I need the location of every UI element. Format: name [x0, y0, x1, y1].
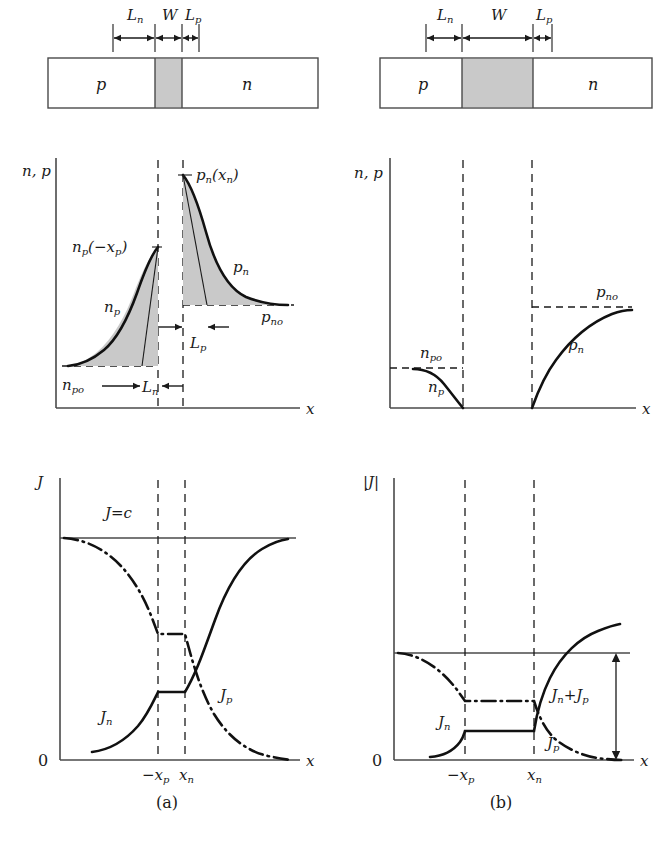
- carrier-xlabel-a: x: [306, 400, 315, 418]
- dim-arrow-ln-b: [427, 35, 461, 41]
- panel-caption-b: (b): [490, 793, 513, 812]
- current-ylabel-a: J: [34, 473, 44, 491]
- label-npo-a: npo: [62, 376, 84, 395]
- panel-caption-a: (a): [156, 793, 178, 812]
- current-plot-a: J x 0 J=c −xp xn Jn Jp: [34, 473, 315, 785]
- panel-b: Ln W Lp p n n, p x: [334, 0, 668, 849]
- carrier-label-ln-a: Ln: [141, 378, 158, 397]
- carrier-plot-b: n, p x npo np pn pno: [354, 158, 651, 418]
- label-np-a: np: [104, 298, 121, 317]
- label-sum-b: Jn+Jp: [548, 686, 589, 705]
- region-label-p-a: p: [96, 75, 106, 94]
- label-jp-a: Jp: [217, 686, 233, 705]
- carrier-ylabel-b: n, p: [354, 164, 383, 182]
- dim-label-w-b: W: [491, 6, 508, 24]
- label-jp-b: Jp: [544, 734, 560, 753]
- carrier-dim-lp-a: [158, 324, 229, 330]
- carrier-plot-a: n, p x np(−xp): [22, 158, 315, 418]
- current-zero-b: 0: [372, 751, 382, 770]
- panel-b-svg: Ln W Lp p n n, p x: [334, 0, 668, 849]
- current-plot-b: |J| x 0 −xp xn: [363, 473, 649, 785]
- label-pn-a: pn: [233, 258, 249, 277]
- curve-jp-a: [64, 538, 290, 760]
- label-total-current-a: J=c: [102, 504, 133, 522]
- xtick-xn-b: xn: [527, 766, 542, 785]
- dim-arrow-ln-a: [114, 35, 154, 41]
- region-label-n-a: n: [242, 75, 252, 94]
- device-outline-a: [48, 58, 318, 108]
- current-xlabel-b: x: [640, 752, 649, 770]
- curve-jp-b: [398, 653, 622, 760]
- dim-label-lp-b: Lp: [535, 6, 553, 25]
- dim-arrow-lp-a: [183, 35, 198, 41]
- excess-area-pn-a: [183, 175, 288, 305]
- label-jn-b: Jn: [435, 713, 450, 732]
- dim-label-ln-b: Ln: [436, 6, 453, 25]
- xtick-minus-xp-a: −xp: [142, 766, 170, 785]
- sum-arrow-b: [612, 653, 620, 760]
- device-bar-b: Ln W Lp p n: [380, 6, 652, 108]
- carrier-ylabel-a: n, p: [22, 162, 51, 180]
- dim-arrow-lp-b: [534, 35, 551, 41]
- depletion-region-a: [155, 59, 182, 107]
- dim-arrow-w-b: [463, 35, 532, 41]
- depletion-region-b: [462, 59, 533, 107]
- current-ylabel-b: |J|: [363, 473, 379, 491]
- dim-arrow-w-a: [156, 35, 181, 41]
- dim-label-ln-a: Ln: [126, 6, 143, 25]
- curve-jn-a: [92, 539, 288, 752]
- label-pno-b: pno: [596, 283, 618, 302]
- label-jn-a: Jn: [97, 708, 112, 727]
- region-label-p-b: p: [418, 75, 428, 94]
- dim-label-w-a: W: [162, 6, 179, 24]
- dim-label-lp-a: Lp: [184, 6, 202, 25]
- curve-jn-b: [430, 624, 620, 757]
- carrier-xlabel-b: x: [642, 400, 651, 418]
- curve-pn-b: [532, 310, 632, 408]
- panel-a: Ln W Lp p n n, p x: [0, 0, 334, 849]
- carrier-label-lp-a: Lp: [189, 334, 207, 353]
- label-np-at-minus-xp-a: np(−xp): [72, 238, 127, 257]
- panel-a-svg: Ln W Lp p n n, p x: [0, 0, 334, 849]
- region-label-n-b: n: [588, 75, 598, 94]
- xtick-minus-xp-b: −xp: [447, 766, 475, 785]
- figure-pn-junction: Ln W Lp p n n, p x: [0, 0, 668, 849]
- label-pn-b: pn: [568, 336, 584, 355]
- label-npo-b: npo: [420, 344, 442, 363]
- label-pn-at-xn-a: pn(xn): [196, 166, 239, 185]
- xtick-xn-a: xn: [179, 766, 194, 785]
- current-zero-a: 0: [38, 751, 48, 770]
- device-bar-a: Ln W Lp p n: [48, 6, 318, 108]
- current-xlabel-a: x: [306, 752, 315, 770]
- label-pno-a: pno: [261, 308, 283, 327]
